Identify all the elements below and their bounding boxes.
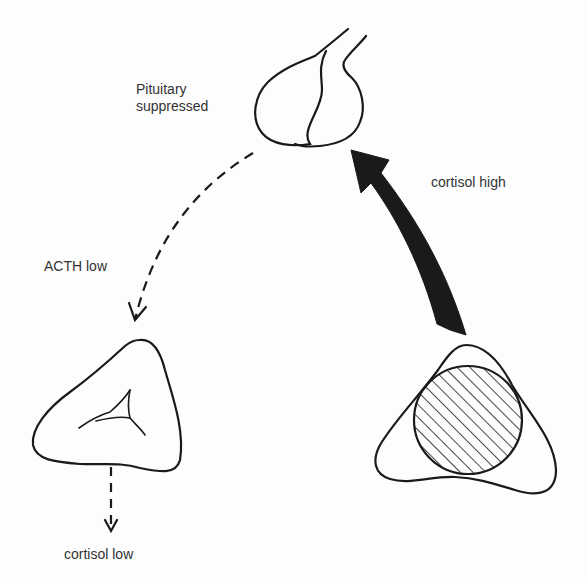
cortisol-low-label: cortisol low xyxy=(64,546,133,563)
pituitary-gland-icon xyxy=(255,29,366,146)
cortisol-low-dashed-arrow-icon xyxy=(105,467,117,531)
diagram-graphics xyxy=(0,0,587,578)
adrenal-with-tumour-icon xyxy=(375,345,556,493)
atrophic-adrenal-icon xyxy=(33,340,181,471)
diagram-canvas: Pituitary suppressed ACTH low cortisol h… xyxy=(0,0,587,578)
cortisol-high-label: cortisol high xyxy=(431,174,506,191)
pituitary-label-line2: suppressed xyxy=(136,98,208,115)
acth-dashed-arrow-icon xyxy=(129,153,253,320)
pituitary-label: Pituitary suppressed xyxy=(136,81,208,115)
pituitary-label-line1: Pituitary xyxy=(136,81,208,98)
acth-low-label: ACTH low xyxy=(44,258,107,275)
